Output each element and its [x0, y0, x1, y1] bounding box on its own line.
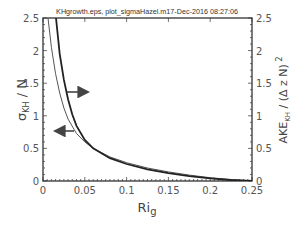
svg-text:0.5: 0.5 [23, 143, 39, 154]
svg-text:2: 2 [256, 46, 262, 57]
chart-title: KHgrowth.eps, plot_sigmaHazel.m17-Dec-20… [56, 7, 238, 16]
y-right-label: AKEKH / (Δ z N) 2 [275, 56, 292, 143]
svg-text:1.5: 1.5 [256, 78, 272, 89]
svg-text:0.05: 0.05 [74, 185, 96, 196]
x-tick-labels: 00.050.10.150.20.25 [40, 185, 263, 196]
svg-text:1: 1 [256, 111, 262, 122]
chart: KHgrowth.eps, plot_sigmaHazel.m17-Dec-20… [0, 0, 299, 225]
svg-text:0.15: 0.15 [157, 185, 179, 196]
plot-frame [43, 18, 252, 181]
series-sigma-thin [48, 18, 252, 181]
svg-text:0.2: 0.2 [202, 185, 218, 196]
svg-text:2.5: 2.5 [256, 13, 272, 24]
svg-text:Rig: Rig [137, 200, 156, 217]
axis-ticks [43, 18, 252, 181]
x-label: Rig [137, 200, 156, 217]
svg-text:2: 2 [33, 46, 39, 57]
series-ake-thick [56, 18, 252, 181]
svg-text:0.5: 0.5 [256, 143, 272, 154]
svg-text:0.1: 0.1 [119, 185, 135, 196]
y-left-label: σKH / N [14, 79, 31, 121]
svg-text:0: 0 [256, 176, 262, 187]
y-right-tick-labels: 00.511.522.5 [256, 13, 272, 187]
svg-text:σKH / N: σKH / N [14, 79, 31, 121]
svg-text:0: 0 [40, 185, 46, 196]
svg-text:0: 0 [33, 176, 39, 187]
svg-text:2.5: 2.5 [23, 13, 39, 24]
svg-text:AKEKH / (Δ z N) 2: AKEKH / (Δ z N) 2 [275, 56, 292, 143]
svg-text:1: 1 [33, 111, 39, 122]
